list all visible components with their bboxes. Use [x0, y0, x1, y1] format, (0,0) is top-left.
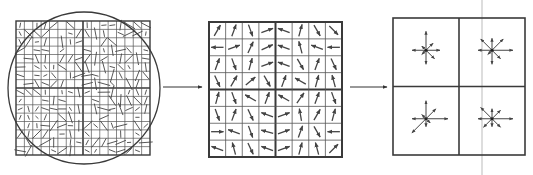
gradient-arrow [228, 130, 240, 134]
gradient-arrow [315, 143, 318, 155]
gradient-sample [136, 79, 139, 88]
gradient-sample [16, 74, 24, 77]
gradient-sample [92, 137, 100, 147]
gradient-sample [44, 114, 46, 120]
gradient-sample [19, 31, 21, 35]
input-patch-panel [8, 12, 160, 164]
gradient-arrow [261, 28, 273, 32]
gradient-sample [119, 72, 122, 78]
gradient-sample [33, 130, 42, 139]
gradient-sample [111, 123, 113, 129]
orientation-histogram [478, 107, 513, 127]
histogram-center [424, 117, 427, 120]
gradient-sample [50, 22, 58, 29]
gradient-sample [25, 89, 32, 95]
gradient-sample [51, 150, 56, 152]
gradient-sample [128, 90, 130, 94]
gradient-arrow [232, 92, 236, 104]
gradient-arrow [332, 75, 335, 87]
gradient-arrow [232, 25, 236, 37]
gradient-sample [85, 150, 90, 153]
gradient-arrow [261, 146, 273, 150]
gradient-sample [60, 55, 64, 63]
gradient-sample [35, 42, 39, 43]
gradient-sample [100, 121, 107, 131]
gradient-sample [42, 100, 48, 101]
histogram-center [490, 49, 493, 52]
gradient-arrow [248, 109, 253, 120]
gradient-sample [109, 108, 115, 109]
gradient-arrow [215, 58, 219, 70]
gradient-sample [35, 106, 38, 111]
gradient-sample [78, 104, 80, 113]
gradient-arrow [261, 62, 273, 66]
gradient-arrow [297, 93, 304, 103]
gradient-sample [28, 123, 30, 128]
gradient-sample [125, 55, 133, 63]
gradient-sample [114, 124, 127, 127]
gradient-sample [95, 149, 97, 152]
gradient-sample [18, 108, 23, 110]
gradient-arrow [248, 42, 253, 53]
gradient-arrow [278, 130, 290, 134]
gradient-sample [53, 96, 54, 105]
gradient-arrow [214, 25, 220, 36]
gradient-arrow [332, 109, 335, 121]
gradient-arrow [248, 143, 253, 154]
gradient-sample [94, 104, 96, 115]
gradient-arrow [278, 45, 290, 49]
gradient-sample [61, 80, 64, 87]
gradient-sample [128, 65, 130, 69]
gradient-arrow [248, 126, 252, 138]
gradient-arrow [232, 58, 236, 70]
gradient-sample [16, 90, 24, 94]
gradient-sample [19, 39, 22, 45]
gradient-sample [69, 107, 71, 111]
gradient-sample [42, 50, 49, 52]
diagram-canvas [0, 0, 533, 175]
gradient-arrow [278, 95, 289, 101]
gradient-arrow [278, 62, 290, 66]
gradient-sample [85, 91, 90, 93]
gradient-sample [102, 138, 107, 147]
gradient-sample [103, 30, 104, 37]
gradient-sample [20, 23, 21, 28]
gradient-arrow [278, 113, 290, 117]
gradient-sample [24, 58, 34, 59]
gradient-sample [57, 124, 67, 128]
histogram-bin-arrow [492, 110, 500, 118]
gradient-sample [35, 80, 40, 88]
gradient-sample [50, 80, 56, 87]
gradient-sample [35, 116, 38, 119]
gradient-sample [34, 50, 41, 51]
gradient-arrow [278, 146, 290, 150]
gradient-sample [70, 130, 71, 138]
gradient-arrow [314, 126, 320, 137]
gradient-sample [135, 133, 139, 135]
gradient-sample [43, 130, 49, 138]
gradient-sample [43, 74, 47, 76]
gradient-sample [109, 150, 116, 153]
gradient-sample [93, 75, 99, 77]
sift-descriptor-diagram [0, 0, 533, 175]
gradient-sample [76, 29, 82, 38]
gradient-sample [41, 125, 51, 126]
gradient-arrow [248, 25, 252, 37]
gradient-sample [86, 140, 89, 145]
histogram-bin-arrow [492, 119, 500, 127]
gradient-sample [92, 99, 99, 102]
gradient-sample [33, 89, 41, 95]
gradient-sample [143, 72, 149, 80]
gradient-sample [134, 22, 141, 28]
gradient-sample [84, 54, 91, 64]
gradient-arrow [332, 92, 336, 104]
gradient-sample [62, 90, 63, 94]
gradient-sample [109, 96, 116, 106]
gradient-arrow [282, 75, 286, 87]
gradient-arrow [264, 76, 270, 87]
gradient-arrow [329, 26, 338, 35]
gradient-arrow [329, 144, 338, 153]
gradient-sample [44, 38, 46, 46]
orientation-histogram [412, 101, 448, 133]
gradient-sample [58, 64, 67, 70]
